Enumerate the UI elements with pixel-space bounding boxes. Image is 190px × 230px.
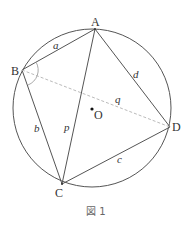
label-side-a: a [53, 39, 59, 51]
label-d: D [172, 120, 181, 134]
diagonal-ac [62, 29, 95, 184]
label-side-c: c [117, 153, 122, 165]
segment-cd [62, 127, 170, 184]
label-o: O [94, 108, 103, 122]
segment-ab [22, 29, 95, 70]
label-side-b: b [34, 122, 40, 134]
label-b: B [11, 64, 19, 78]
label-diagonal-q: q [115, 93, 121, 105]
segment-bc [22, 70, 62, 184]
cyclic-quadrilateral-figure: A B C D O a b c d p q 図 1 [0, 0, 190, 230]
figure-caption: 図 1 [86, 206, 106, 217]
label-side-d: d [133, 68, 139, 80]
point-c-dot [61, 183, 63, 185]
label-a: A [91, 15, 100, 29]
label-c: C [55, 186, 63, 200]
label-diagonal-p: p [63, 121, 70, 133]
